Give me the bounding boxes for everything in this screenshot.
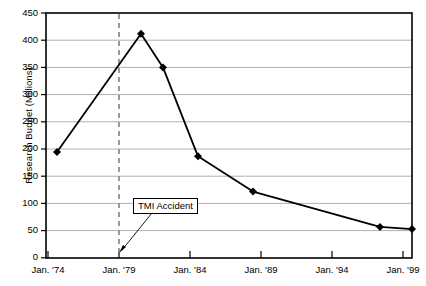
chart-figure: Research Budget (Millions) 450 400 350 3… xyxy=(0,0,426,286)
plot-canvas xyxy=(0,0,426,286)
tmi-accident-annotation: TMI Accident xyxy=(133,198,198,214)
